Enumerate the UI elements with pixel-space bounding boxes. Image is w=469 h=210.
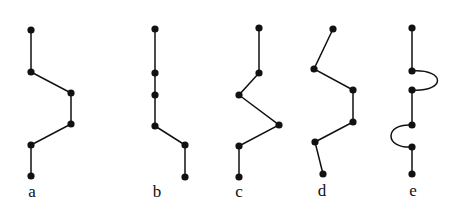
node-e-3 — [408, 121, 415, 128]
figure-label: e — [409, 181, 417, 200]
path-edges — [31, 30, 71, 176]
node-e-0 — [408, 24, 415, 31]
node-d-2 — [349, 86, 356, 93]
node-c-0 — [255, 24, 262, 31]
node-e-2 — [408, 86, 415, 93]
node-c-3 — [275, 121, 282, 128]
node-b-2 — [151, 91, 158, 98]
loop-edge-left — [391, 125, 412, 147]
node-c-1 — [255, 69, 262, 76]
node-c-5 — [235, 173, 242, 180]
figure-c: c — [235, 24, 282, 201]
node-a-2 — [67, 89, 74, 96]
loop-edge-right — [412, 71, 438, 90]
path-edges — [239, 28, 279, 177]
path-edges — [314, 29, 353, 174]
node-a-1 — [27, 68, 34, 75]
node-b-5 — [181, 173, 188, 180]
figure-e: e — [391, 24, 438, 200]
figure-label: b — [153, 182, 162, 201]
node-b-4 — [181, 141, 188, 148]
node-c-2 — [235, 91, 242, 98]
figure-label: c — [235, 182, 243, 201]
figure-label: d — [318, 181, 327, 200]
node-a-4 — [27, 141, 34, 148]
node-a-3 — [67, 120, 74, 127]
node-d-3 — [349, 118, 356, 125]
path-edges — [155, 29, 185, 177]
node-d-4 — [311, 138, 318, 145]
figure-d: d — [310, 25, 356, 200]
node-a-0 — [27, 26, 34, 33]
node-c-4 — [235, 142, 242, 149]
node-d-1 — [310, 65, 317, 72]
node-d-0 — [329, 25, 336, 32]
node-e-4 — [408, 143, 415, 150]
node-a-5 — [27, 172, 34, 179]
node-e-5 — [408, 170, 415, 177]
node-e-1 — [408, 67, 415, 74]
node-b-0 — [151, 25, 158, 32]
figure-a: a — [27, 26, 74, 201]
node-b-1 — [151, 69, 158, 76]
figure-label: a — [28, 182, 36, 201]
node-d-5 — [319, 170, 326, 177]
path-diagram: a b c d e — [0, 0, 469, 210]
node-b-3 — [151, 122, 158, 129]
figure-b: b — [151, 25, 188, 201]
